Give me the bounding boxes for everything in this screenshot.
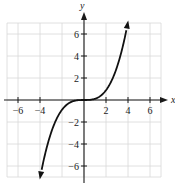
x-axis-arrow-icon <box>160 97 168 103</box>
curve-arrow-bottom-icon <box>38 171 44 179</box>
y-tick-label: −4 <box>68 139 79 150</box>
x-tick-label: 6 <box>148 105 153 116</box>
x-tick-label: 4 <box>126 105 131 116</box>
y-tick-label: −6 <box>68 161 79 172</box>
y-tick-label: 4 <box>74 51 79 62</box>
x-axis-label: x <box>170 94 175 105</box>
y-tick-label: 2 <box>74 73 79 84</box>
x-tick-label: −4 <box>35 105 46 116</box>
y-axis-label: y <box>79 0 85 11</box>
cubic-graph: −6−4246642−2−4−6 x y <box>0 0 175 186</box>
y-tick-label: 6 <box>74 29 79 40</box>
y-axis-arrow-icon <box>81 12 87 20</box>
curve-arrow-top-icon <box>124 21 130 29</box>
x-tick-label: −6 <box>13 105 24 116</box>
x-tick-label: 2 <box>104 105 109 116</box>
y-tick-label: −2 <box>68 117 79 128</box>
